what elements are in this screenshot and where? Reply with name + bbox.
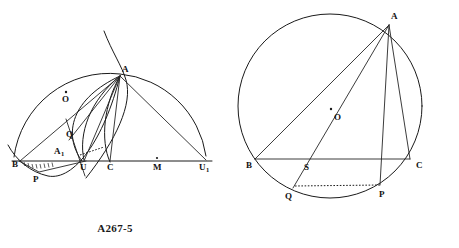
figure-right: A O B S C Q P A-626 — [230, 0, 459, 248]
point-marker-O — [65, 91, 67, 93]
figure-left-canvas: B P A 1 Q U C M U 1 O A — [0, 0, 230, 215]
label-U1: U — [199, 162, 206, 172]
label-Q: Q — [66, 129, 73, 139]
label-U: U — [80, 162, 87, 172]
label-A1: A — [54, 146, 61, 156]
figure-right-canvas: A O B S C Q P — [230, 0, 459, 215]
label-A: A — [391, 11, 398, 21]
figure-left: B P A 1 Q U C M U 1 O A A267-5 — [0, 0, 230, 248]
label-A: A — [122, 64, 129, 74]
cevian-A-P — [380, 25, 389, 185]
label-C: C — [416, 160, 423, 170]
chord-A-B — [20, 76, 120, 161]
label-B: B — [246, 160, 252, 170]
point-marker-O — [330, 108, 332, 110]
dotted-segment-U-to-C-arc — [80, 147, 104, 155]
label-O: O — [334, 112, 341, 122]
point-marker-M — [156, 157, 158, 159]
arc-U-left-bulge-to-A — [72, 76, 120, 161]
label-P: P — [379, 189, 385, 199]
circumcircle — [238, 14, 422, 198]
semicircle-B-A-U1 — [14, 73, 206, 157]
label-M: M — [153, 162, 162, 172]
chord-A-Q — [69, 76, 120, 140]
label-P: P — [33, 174, 39, 184]
figure-page: B P A 1 Q U C M U 1 O A A267-5 — [0, 0, 459, 248]
label-O: O — [62, 94, 69, 104]
dotted-chord-Q-P — [295, 185, 380, 186]
label-S: S — [304, 162, 309, 172]
label-U1-subscript: 1 — [206, 166, 209, 173]
label-C: C — [107, 162, 114, 172]
label-Q: Q — [285, 191, 292, 201]
figure-left-caption: A267-5 — [0, 222, 230, 234]
label-B: B — [12, 159, 18, 169]
label-A1-subscript: 1 — [61, 150, 64, 157]
arc-through-A-and-U — [86, 31, 128, 178]
